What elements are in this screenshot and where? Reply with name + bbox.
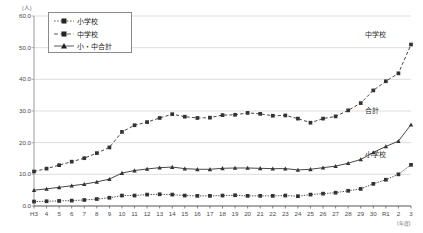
data-point <box>45 199 49 203</box>
data-point <box>233 113 237 117</box>
data-point <box>359 187 363 191</box>
y-axis-tick-label: 0.0 <box>2 202 31 209</box>
legend-label-0: 小学校 <box>77 16 98 26</box>
data-point <box>120 130 124 134</box>
data-point <box>246 194 250 198</box>
data-point <box>108 146 112 150</box>
data-point <box>108 196 112 200</box>
data-point <box>221 113 225 117</box>
data-point <box>158 116 162 120</box>
x-axis-tick-label: 3 <box>402 210 420 217</box>
legend-item-0: 小学校 <box>49 15 131 28</box>
data-point <box>170 112 174 116</box>
data-point <box>120 194 124 198</box>
data-point <box>346 189 350 193</box>
data-point <box>133 194 137 198</box>
chart-legend: 小学校 中学校 小・中合計 <box>48 12 132 53</box>
data-point <box>208 116 212 120</box>
data-point <box>208 194 212 198</box>
legend-label-1: 中学校 <box>77 29 98 39</box>
legend-item-1: 中学校 <box>49 28 131 41</box>
data-point <box>271 194 275 198</box>
data-point <box>57 163 61 167</box>
data-point <box>32 170 36 174</box>
data-point <box>70 160 74 164</box>
data-point <box>258 194 262 198</box>
data-point <box>384 178 388 182</box>
data-point <box>271 114 275 118</box>
data-point <box>45 167 49 171</box>
y-axis-tick-label: 10.0 <box>2 170 31 177</box>
y-axis-tick-label: 40.0 <box>2 75 31 82</box>
data-point <box>283 114 287 118</box>
data-point <box>321 117 325 121</box>
data-point <box>258 112 262 116</box>
series-annotation: 小学校 <box>365 149 386 159</box>
data-point <box>183 115 187 119</box>
data-point <box>82 198 86 202</box>
data-point <box>409 43 413 47</box>
data-point <box>334 191 338 195</box>
legend-label-2: 小・中合計 <box>77 41 112 51</box>
data-point <box>221 194 225 198</box>
data-point <box>196 116 200 120</box>
data-point <box>346 109 350 113</box>
data-point <box>158 192 162 196</box>
data-point <box>95 151 99 155</box>
y-axis-tick-label: 50.0 <box>2 44 31 51</box>
data-point <box>170 193 174 197</box>
data-point <box>409 163 413 167</box>
data-point <box>397 172 401 176</box>
series-annotation: 合計 <box>365 105 379 115</box>
legend-item-2: 小・中合計 <box>49 40 131 53</box>
data-point <box>133 123 137 127</box>
data-point <box>196 194 200 198</box>
data-point <box>283 194 287 198</box>
series-annotation: 中学校 <box>365 29 386 39</box>
x-axis-unit-label: (年度) <box>397 219 410 226</box>
data-point <box>32 200 36 204</box>
y-axis-tick-label: 60.0 <box>2 12 31 19</box>
data-point <box>95 197 99 201</box>
data-point <box>321 192 325 196</box>
data-point <box>371 89 375 93</box>
data-point <box>309 193 313 197</box>
legend-key-dotted-square-icon <box>53 16 75 26</box>
y-axis-tick-label: 20.0 <box>2 139 31 146</box>
data-point <box>57 199 61 203</box>
legend-key-solid-triangle-icon <box>53 41 75 51</box>
data-point <box>70 199 74 203</box>
data-point <box>296 194 300 198</box>
data-point <box>183 194 187 198</box>
data-point <box>233 193 237 197</box>
data-point <box>371 182 375 186</box>
data-point <box>359 101 363 105</box>
legend-key-dashed-square-icon <box>53 29 75 39</box>
data-point <box>397 71 401 75</box>
data-point <box>334 115 338 119</box>
chart-container: (人) 小学校 中学校 <box>0 0 423 233</box>
data-point <box>145 120 149 124</box>
data-point <box>309 121 313 125</box>
y-axis-tick-label: 30.0 <box>2 107 31 114</box>
data-point <box>145 193 149 197</box>
data-point <box>384 79 388 83</box>
data-point <box>246 111 250 115</box>
data-point <box>82 156 86 160</box>
data-point <box>296 117 300 121</box>
